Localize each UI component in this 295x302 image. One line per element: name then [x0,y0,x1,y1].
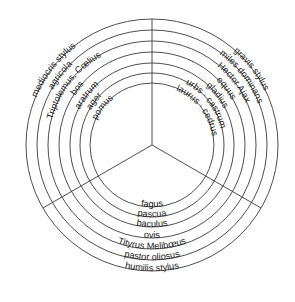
virgil-wheel-diagram: pomus ager aratrum bos Triptolemus, Cœli… [0,0,295,302]
bottom-label-2: pascua [137,208,168,220]
bottom-label-3: baculus [136,218,169,230]
sector-bottom-labels: fagus pascua baculus ovis Tityrus Melibœ… [117,198,188,273]
sector-left-labels: pomus ager aratrum bos Triptolemus, Cœli… [29,40,115,121]
bottom-label-4: ovis [144,230,161,240]
bottom-label-1: fagus [140,198,163,209]
sector-right-labels: laurus · cedrus urbs · castrum gladius e… [175,45,272,137]
